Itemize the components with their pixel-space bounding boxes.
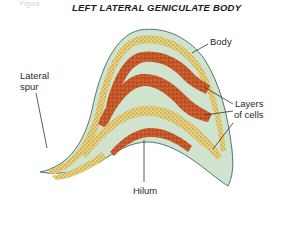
lateral-spur-leader-line — [36, 93, 47, 148]
label-layers-line2: of cells — [234, 109, 264, 120]
label-hilum: Hilum — [133, 185, 157, 196]
label-body: Body — [210, 36, 232, 47]
label-layers-line1: Layers — [235, 98, 264, 109]
label-lateral-spur-line1: Lateral — [20, 70, 49, 81]
label-lateral-spur-line2: spur — [20, 81, 38, 92]
